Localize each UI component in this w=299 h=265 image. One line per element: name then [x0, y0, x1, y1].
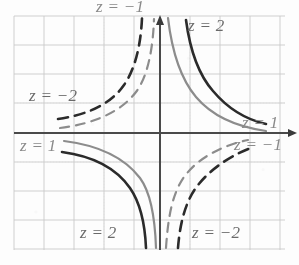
curve-label-bottom-right: z = −2: [192, 224, 240, 241]
curve-label-top-center: z = −1: [96, 0, 144, 15]
level-curves-figure: z = −1 z = 2 z = −2 z = 1 z = −1 z = 1 z…: [0, 0, 299, 265]
curve-label-bottom-left: z = 2: [80, 224, 117, 241]
curve-label-left-lower: z = 1: [20, 137, 57, 154]
x-axis-arrow-icon: [288, 129, 297, 137]
plot-canvas: [0, 0, 299, 265]
curve-label-left-upper: z = −2: [29, 87, 77, 104]
curve-label-right-lower: z = −1: [234, 136, 282, 153]
curve-label-right-upper: z = 1: [242, 114, 279, 131]
curve-label-top-right: z = 2: [188, 17, 225, 34]
